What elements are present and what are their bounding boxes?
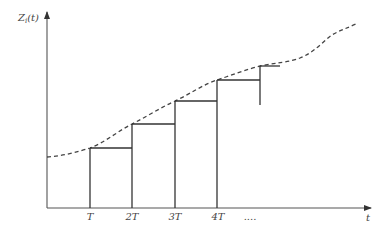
x-tick-label-2T: 2T bbox=[124, 211, 139, 222]
x-tick-label-3T: 3T bbox=[168, 211, 182, 222]
x-axis-label: t bbox=[366, 212, 371, 223]
step-function-diagram: Zi(t) T 2T 3T 4T .... t bbox=[0, 0, 390, 232]
x-tick-label-4T: 4T bbox=[210, 211, 225, 222]
x-tick-continuation: .... bbox=[244, 211, 257, 222]
step-function bbox=[90, 66, 280, 208]
continuous-curve bbox=[47, 23, 358, 157]
x-tick-label-T: T bbox=[87, 211, 95, 222]
y-axis-label: Zi(t) bbox=[17, 12, 39, 25]
